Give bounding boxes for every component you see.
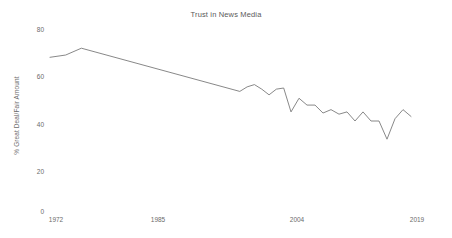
chart-container: Trust in News Media % Great Deal/Fair Am…	[0, 0, 452, 238]
plot-area	[0, 0, 452, 238]
data-line-trust-in-news-media	[50, 48, 411, 139]
